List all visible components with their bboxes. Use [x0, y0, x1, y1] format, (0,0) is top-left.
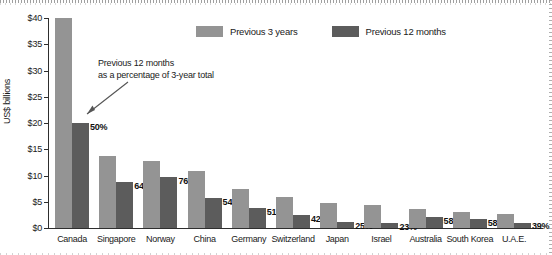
bar-group: 54% [188, 18, 222, 228]
y-tick-mark [44, 97, 49, 98]
bar-group: 58% [453, 18, 487, 228]
bar-previous-3-years [143, 161, 160, 228]
y-tick-label: $10 [28, 171, 42, 181]
plot-area: $0$5$10$15$20$25$30$35$40 50%64%76%54%51… [48, 18, 543, 228]
bar-percentage-label: 39% [532, 221, 549, 231]
y-tick-mark [44, 44, 49, 45]
x-category-label: U.A.E. [477, 234, 551, 244]
legend-item-previous-12-months: Previous 12 months [332, 26, 446, 37]
y-tick-label: $25 [28, 92, 42, 102]
legend-label-previous-3-years: Previous 3 years [230, 26, 298, 37]
legend-item-previous-3-years: Previous 3 years [196, 26, 298, 37]
bar-previous-3-years [409, 209, 426, 228]
bar-group: 42% [276, 18, 310, 228]
bar-group: 39% [497, 18, 531, 228]
annotation-line-1: Previous 12 months [98, 58, 214, 70]
chart-figure: US$ billions $0$5$10$15$20$25$30$35$40 5… [0, 0, 552, 255]
legend-swatch-previous-3-years [196, 26, 223, 37]
y-tick-mark [44, 123, 49, 124]
bar-previous-12-months [337, 222, 354, 228]
bar-group: 51% [232, 18, 266, 228]
bar-group: 58% [409, 18, 443, 228]
bar-previous-3-years [232, 189, 249, 228]
legend-label-previous-12-months: Previous 12 months [366, 26, 446, 37]
y-tick-mark [44, 176, 49, 177]
scan-edge-top-secondary [0, 3, 552, 5]
legend-swatch-previous-12-months [332, 26, 359, 37]
bar-previous-3-years [320, 203, 337, 228]
bar-previous-12-months [205, 198, 222, 228]
bar-previous-12-months [249, 208, 266, 228]
y-tick-label: $15 [28, 144, 42, 154]
bar-previous-12-months [72, 123, 89, 228]
bar-group: 23% [364, 18, 398, 228]
bar-previous-3-years [99, 156, 116, 228]
bar-previous-3-years [55, 18, 72, 228]
bar-previous-3-years [497, 214, 514, 228]
bar-previous-3-years [453, 212, 470, 228]
bar-previous-3-years [364, 205, 381, 228]
bar-group: 25% [320, 18, 354, 228]
y-tick-label: $30 [28, 66, 42, 76]
bar-previous-3-years [188, 171, 205, 228]
x-axis-line [48, 228, 543, 229]
y-tick-label: $0 [32, 223, 42, 233]
bar-previous-3-years [276, 197, 293, 229]
y-axis-title: US$ billions [2, 79, 12, 124]
y-tick-label: $20 [28, 118, 42, 128]
bar-group: 76% [143, 18, 177, 228]
y-tick-mark [44, 149, 49, 150]
y-tick-label: $35 [28, 39, 42, 49]
bar-previous-12-months [514, 223, 531, 229]
bar-previous-12-months [381, 223, 398, 228]
annotation-text: Previous 12 months as a percentage of 3-… [98, 58, 214, 81]
y-tick-mark [44, 18, 49, 19]
bar-group: 64% [99, 18, 133, 228]
bar-group: 50% [55, 18, 89, 228]
bar-previous-12-months [426, 217, 443, 228]
bar-previous-12-months [470, 219, 487, 228]
y-tick-label: $5 [32, 197, 42, 207]
bar-previous-12-months [293, 215, 310, 228]
chart-legend: Previous 3 years Previous 12 months [196, 26, 446, 37]
bar-previous-12-months [160, 177, 177, 228]
y-tick-mark [44, 202, 49, 203]
bar-previous-12-months [116, 182, 133, 228]
y-tick-mark [44, 71, 49, 72]
y-tick-mark [44, 228, 49, 229]
annotation-arrow-icon [78, 80, 130, 120]
y-tick-label: $40 [28, 13, 42, 23]
